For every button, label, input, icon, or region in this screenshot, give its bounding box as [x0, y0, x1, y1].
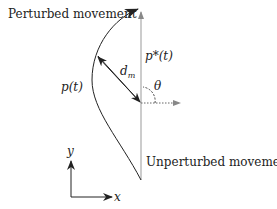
p-star-label: p*(t) [145, 49, 173, 63]
unperturbed-movement-label: Unperturbed movement [146, 155, 277, 169]
dm-label: dm [120, 64, 136, 80]
theta-label: θ [154, 79, 162, 93]
motion-diagram: Perturbed movement Unperturbed movement … [0, 0, 277, 209]
p-t-label: p(t) [61, 80, 83, 94]
y-axis-label: y [66, 144, 74, 158]
perturbed-movement-label: Perturbed movement [8, 7, 137, 21]
x-axis-label: x [114, 190, 121, 204]
